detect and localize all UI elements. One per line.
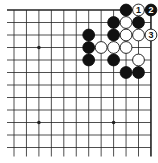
- stone-disc: [120, 4, 132, 16]
- black-stone: [120, 4, 132, 16]
- black-stone: [83, 29, 95, 41]
- black-stone: [133, 67, 145, 79]
- move-number-label: 1: [136, 5, 141, 15]
- white-stone-move-1: 1: [133, 4, 145, 16]
- black-stone: [133, 17, 145, 29]
- black-stone: [108, 17, 120, 29]
- star-point: [37, 46, 41, 50]
- white-stone-move-3: 3: [145, 29, 157, 41]
- stone-disc: [133, 17, 145, 29]
- white-stone: [133, 54, 145, 66]
- white-stone: [95, 42, 107, 54]
- stone-disc: [108, 17, 120, 29]
- white-stone: [133, 29, 145, 41]
- stone-disc: [108, 54, 120, 66]
- stone-disc: [133, 29, 145, 41]
- stone-disc: [83, 29, 95, 41]
- stone-disc: [108, 29, 120, 41]
- black-stone: [108, 29, 120, 41]
- stone-disc: [83, 54, 95, 66]
- stone-disc: [95, 42, 107, 54]
- stone-disc: [133, 54, 145, 66]
- stone-disc: [120, 42, 132, 54]
- stone-disc: [108, 42, 120, 54]
- stone-disc: [120, 29, 132, 41]
- black-stone: [120, 67, 132, 79]
- stones: 123: [83, 4, 157, 78]
- go-board: 123: [0, 0, 158, 163]
- move-number-label: 3: [148, 30, 153, 40]
- move-number-label: 2: [148, 5, 153, 15]
- black-stone: [83, 54, 95, 66]
- white-stone: [120, 29, 132, 41]
- stone-disc: [83, 42, 95, 54]
- white-stone: [108, 42, 120, 54]
- black-stone: [83, 42, 95, 54]
- white-stone: [120, 17, 132, 29]
- black-stone: [108, 54, 120, 66]
- star-point: [112, 121, 116, 125]
- white-stone: [120, 42, 132, 54]
- stone-disc: [120, 67, 132, 79]
- stone-disc: [120, 17, 132, 29]
- stone-disc: [133, 67, 145, 79]
- star-point: [37, 121, 41, 125]
- black-stone-move-2: 2: [145, 4, 157, 16]
